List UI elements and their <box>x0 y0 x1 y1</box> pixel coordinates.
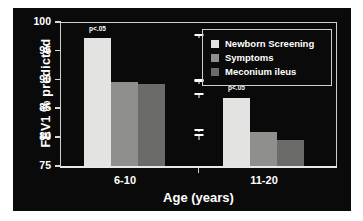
chart-panel: FEV1 % predicted 75 80 85 90 <box>13 8 351 211</box>
legend-item-newborn-screening: Newborn Screening <box>211 37 324 50</box>
y-tick-label: 75 <box>39 159 51 171</box>
error-bar-g1-s0 <box>194 93 203 98</box>
bar-fill <box>138 84 165 166</box>
bar-g1-s2 <box>277 140 304 166</box>
y-tick-label: 80 <box>39 130 51 142</box>
axis-line-left <box>60 22 61 168</box>
legend-label: Meconium ileus <box>225 66 296 77</box>
bar-fill <box>111 82 138 166</box>
axis-line-right <box>336 22 337 168</box>
tick-mark <box>55 50 61 52</box>
legend: Newborn Screening Symptoms Meconium ileu… <box>202 29 332 86</box>
axis-line-top <box>60 22 337 23</box>
annotation-pvalue-g0: p<.05 <box>89 25 106 32</box>
error-cap <box>194 129 203 131</box>
x-axis-title: Age (years) <box>60 190 337 205</box>
legend-item-meconium-ileus: Meconium ileus <box>211 65 324 78</box>
bar-fill <box>250 132 277 166</box>
bar-g1-s0 <box>223 98 250 166</box>
legend-label: Symptoms <box>225 52 274 63</box>
x-category-label-0: 6-10 <box>114 174 136 186</box>
legend-swatch-icon <box>211 54 219 62</box>
y-tick-label: 90 <box>39 73 51 85</box>
tick-mark <box>55 136 61 138</box>
bar-fill <box>223 98 250 166</box>
error-cap <box>194 134 203 136</box>
bar-g0-s2 <box>138 84 165 166</box>
bar-g0-s0 <box>84 38 111 166</box>
figure: FEV1 % predicted 75 80 85 90 <box>0 0 363 221</box>
bar-g0-s1 <box>111 82 138 166</box>
tick-mark <box>55 79 61 81</box>
bar-fill <box>277 140 304 166</box>
y-tick-label: 95 <box>39 44 51 56</box>
error-cap <box>194 93 203 95</box>
tick-mark <box>55 107 61 109</box>
tick-mark <box>55 21 61 23</box>
legend-swatch-icon <box>211 68 219 76</box>
bar-fill <box>84 38 111 166</box>
error-bar-g1-s1 <box>194 129 203 132</box>
y-tick-label: 100 <box>33 15 51 27</box>
tick-mark <box>55 165 61 167</box>
x-category-label-1: 11-20 <box>250 174 278 186</box>
legend-item-symptoms: Symptoms <box>211 51 324 64</box>
legend-label: Newborn Screening <box>225 38 314 49</box>
error-bar-g1-s2 <box>194 134 203 139</box>
legend-swatch-icon <box>211 40 219 48</box>
y-tick-label: 85 <box>39 101 51 113</box>
x-tick-major <box>198 168 199 173</box>
bar-g1-s1 <box>250 132 277 166</box>
